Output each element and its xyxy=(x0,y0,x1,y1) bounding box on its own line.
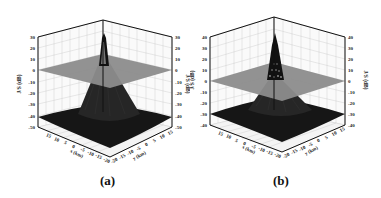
svg-text:-20: -20 xyxy=(110,157,119,165)
svg-text:20: 20 xyxy=(348,57,354,62)
svg-text:20: 20 xyxy=(202,57,208,62)
z-axis-label-left: J/S (dB) xyxy=(190,70,196,89)
svg-text:10: 10 xyxy=(30,57,36,62)
svg-text:5: 5 xyxy=(63,140,68,146)
svg-text:-20: -20 xyxy=(282,152,291,160)
svg-text:30: 30 xyxy=(175,35,181,40)
svg-text:-40: -40 xyxy=(200,123,207,128)
svg-text:-20: -20 xyxy=(274,152,283,160)
svg-text:-30: -30 xyxy=(200,112,207,117)
svg-text:10: 10 xyxy=(175,57,181,62)
svg-text:-50: -50 xyxy=(175,125,182,130)
panel-caption-b: (b) xyxy=(273,173,289,189)
svg-text:-30: -30 xyxy=(175,102,182,107)
svg-text:5: 5 xyxy=(324,135,329,141)
z-tick-labels-left: 30 20 10 0 -10 -20 -30 -40 -50 xyxy=(28,35,35,130)
svg-text:-20: -20 xyxy=(175,91,182,96)
svg-text:10: 10 xyxy=(53,136,60,143)
svg-text:-20: -20 xyxy=(200,101,207,106)
y-axis-label: y (km) xyxy=(304,145,319,156)
subplot-a: 30 20 10 0 -10 -20 -30 -40 -50 30 20 10 … xyxy=(0,0,190,198)
svg-text:-15: -15 xyxy=(118,153,127,161)
surface-plot-a: 30 20 10 0 -10 -20 -30 -40 -50 30 20 10 … xyxy=(0,0,190,198)
panel-caption-a: (a) xyxy=(100,173,115,189)
svg-text:30: 30 xyxy=(348,46,354,51)
svg-text:-40: -40 xyxy=(28,114,35,119)
svg-text:40: 40 xyxy=(202,35,208,40)
svg-text:-30: -30 xyxy=(348,112,355,117)
z-tick-labels-right: 40 30 20 10 0 -10 -20 -30 -40 xyxy=(348,35,355,128)
svg-text:10: 10 xyxy=(159,133,166,140)
z-tick-labels-left: 40 30 20 10 0 -10 -20 -30 -40 xyxy=(200,35,207,128)
svg-text:10: 10 xyxy=(202,68,208,73)
subplot-b: 40 30 20 10 0 -10 -20 -30 -40 40 30 20 1… xyxy=(190,0,380,198)
svg-text:-10: -10 xyxy=(175,80,182,85)
svg-text:5: 5 xyxy=(152,138,157,144)
svg-text:-10: -10 xyxy=(258,146,267,154)
svg-text:-10: -10 xyxy=(87,150,96,158)
svg-text:0: 0 xyxy=(175,68,178,73)
svg-text:-5: -5 xyxy=(135,145,141,152)
z-axis-label-right: J/S (dB) xyxy=(362,70,369,89)
svg-text:-10: -10 xyxy=(348,90,355,95)
svg-text:30: 30 xyxy=(202,46,208,51)
svg-text:-10: -10 xyxy=(28,80,35,85)
svg-text:20: 20 xyxy=(175,46,181,51)
svg-text:0: 0 xyxy=(33,68,36,73)
svg-text:10: 10 xyxy=(225,133,232,140)
svg-text:30: 30 xyxy=(30,35,36,40)
svg-text:5: 5 xyxy=(234,138,239,144)
svg-text:0: 0 xyxy=(348,79,351,84)
svg-text:15: 15 xyxy=(45,132,52,139)
svg-text:-10: -10 xyxy=(200,90,207,95)
z-axis-label-left: J/S (dB) xyxy=(16,74,23,93)
svg-text:0: 0 xyxy=(205,79,208,84)
svg-text:-15: -15 xyxy=(266,149,275,157)
svg-text:-40: -40 xyxy=(348,123,355,128)
svg-text:-40: -40 xyxy=(175,114,182,119)
svg-text:15: 15 xyxy=(339,126,346,133)
svg-text:-50: -50 xyxy=(28,125,35,130)
svg-text:10: 10 xyxy=(331,130,338,137)
svg-text:-30: -30 xyxy=(28,102,35,107)
y-axis-label: y (km) xyxy=(132,150,147,161)
svg-text:0: 0 xyxy=(144,142,149,148)
svg-text:15: 15 xyxy=(217,130,224,137)
surface-plot-b: 40 30 20 10 0 -10 -20 -30 -40 40 30 20 1… xyxy=(190,0,380,198)
svg-text:40: 40 xyxy=(348,35,354,40)
z-tick-labels-right: 30 20 10 0 -10 -20 -30 -40 -50 xyxy=(175,35,182,130)
svg-text:15: 15 xyxy=(167,129,174,136)
svg-text:-20: -20 xyxy=(348,101,355,106)
svg-text:20: 20 xyxy=(30,46,36,51)
svg-text:-20: -20 xyxy=(28,91,35,96)
svg-text:0: 0 xyxy=(316,138,321,144)
svg-text:10: 10 xyxy=(348,68,354,73)
